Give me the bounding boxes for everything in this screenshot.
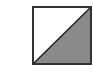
half-filled-square-icon [32,6,92,65]
